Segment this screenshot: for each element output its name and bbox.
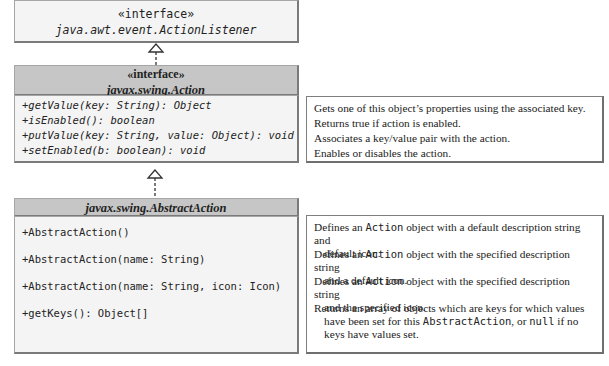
- stereotype-label: «interface»: [15, 67, 297, 82]
- note-putvalue: Associates a key/value pair with the act…: [314, 132, 596, 145]
- class-action-listener: «interface» java.awt.event.ActionListene…: [14, 0, 299, 43]
- class-abstract-action-header: javax.swing.AbstractAction: [14, 198, 299, 217]
- method-isenabled: +isEnabled(): boolean: [22, 114, 155, 126]
- constructor-name: +AbstractAction(name: String): [22, 253, 205, 265]
- note-abstract-action: Defines an Action object with a default …: [306, 215, 604, 354]
- note-setenabled: Enables or disables the action.: [314, 147, 596, 160]
- realization-arrow-icon: [145, 164, 165, 199]
- stereotype-label: «interface»: [15, 6, 297, 22]
- class-abstract-action-members: +AbstractAction() +AbstractAction(name: …: [14, 216, 299, 354]
- class-name: java.awt.event.ActionListener: [15, 22, 297, 38]
- class-name: javax.swing.AbstractAction: [15, 200, 297, 216]
- constructor-name-icon: +AbstractAction(name: String, icon: Icon…: [22, 280, 281, 292]
- note-action: Gets one of this object’s properties usi…: [306, 96, 604, 163]
- class-action-header: «interface» javax.swing.Action: [14, 65, 299, 96]
- method-setenabled: +setEnabled(b: boolean): void: [22, 144, 205, 156]
- note-isenabled: Returns true if action is enabled.: [314, 117, 596, 130]
- method-putvalue: +putValue(key: String, value: Object): v…: [22, 129, 294, 141]
- note-getkeys: Returns an array of objects which are ke…: [314, 302, 596, 341]
- note-getvalue: Gets one of this object’s properties usi…: [314, 102, 596, 115]
- realization-arrow-icon: [146, 42, 166, 66]
- method-getkeys: +getKeys(): Object[]: [22, 307, 148, 319]
- class-action-members: +getValue(key: String): Object +isEnable…: [14, 95, 299, 163]
- constructor-default: +AbstractAction(): [22, 226, 129, 238]
- method-getvalue: +getValue(key: String): Object: [22, 99, 212, 111]
